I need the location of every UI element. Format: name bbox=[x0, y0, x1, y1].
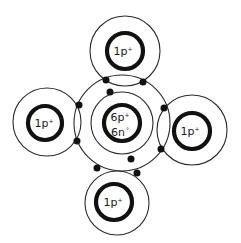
shared-electron bbox=[158, 146, 165, 153]
shared-electron bbox=[161, 105, 168, 112]
hydrogen-atom-left: 1p+ bbox=[13, 88, 81, 156]
shared-electron bbox=[74, 138, 81, 145]
shared-electron bbox=[140, 79, 147, 86]
hydrogen-atom-bottom: 1p+ bbox=[85, 171, 149, 235]
shared-electron bbox=[94, 165, 101, 172]
shared-electron bbox=[76, 102, 83, 109]
shared-electron bbox=[134, 170, 141, 177]
carbon-atom: 6p+ 6n° bbox=[74, 75, 170, 171]
methane-bonding-diagram: 6p+ 6n° 1p+ 1p+ 1p+ 1p+ bbox=[0, 0, 241, 243]
bond-top bbox=[103, 77, 147, 86]
inner-electron bbox=[128, 156, 135, 163]
inner-electron bbox=[107, 89, 114, 96]
hydrogen-atom-right: 1p+ bbox=[157, 95, 227, 165]
shared-electron bbox=[103, 77, 110, 84]
